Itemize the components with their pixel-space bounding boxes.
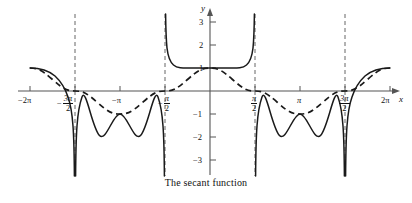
secant-function-figure: −2π −3π2 −π −π2 π2 π 3π2 2π 3 2 1 −1 −2 … <box>0 0 412 203</box>
fraction-pi-over-2-left: π2 <box>164 94 170 112</box>
y-tick-text-2: 2 <box>199 40 203 50</box>
x-tick-label-pi: π <box>297 96 301 105</box>
y-tick-label-2: 2 <box>199 41 203 50</box>
minus-sign-neg-3pi-2: − <box>57 99 62 108</box>
y-tick-text-neg-3: −3 <box>193 155 202 165</box>
x-tick-text-2pi: 2π <box>381 95 390 105</box>
x-tick-text-neg-pi: −π <box>112 95 121 105</box>
fraction-3pi-over-2-right: 3π2 <box>339 94 350 112</box>
y-tick-label-neg-2: −2 <box>193 133 202 142</box>
y-tick-label-1: 1 <box>199 64 203 73</box>
fraction-3pi-over-2-left: 3π2 <box>63 94 74 112</box>
x-axis-label: x <box>399 94 403 104</box>
x-tick-text-pi: π <box>297 95 301 105</box>
x-tick-label-pi-over-2: π2 <box>251 94 257 112</box>
x-tick-text-neg-2pi: −2π <box>18 95 31 105</box>
x-tick-label-neg-pi-over-2: −π2 <box>158 94 170 112</box>
secant-branch-5 <box>346 68 390 176</box>
secant-branch-1 <box>30 68 74 176</box>
fraction-denominator-2-negpi: 2 <box>164 104 170 113</box>
figure-caption: The secant function <box>0 177 412 188</box>
y-tick-text-1: 1 <box>199 63 203 73</box>
x-tick-label-neg-3pi-over-2: −3π2 <box>57 94 73 112</box>
y-tick-label-3: 3 <box>199 18 203 27</box>
minus-sign-neg-pi-2: − <box>158 99 163 108</box>
x-axis-label-text: x <box>399 94 403 104</box>
fraction-denominator-2-pi: 2 <box>251 104 257 113</box>
y-axis-label: y <box>201 3 205 13</box>
fraction-denominator-2-right: 2 <box>339 104 350 113</box>
x-tick-label-3pi-over-2: 3π2 <box>339 94 350 112</box>
x-tick-label-neg-pi: −π <box>112 96 121 105</box>
y-axis-label-text: y <box>201 3 205 13</box>
secant-branch-2 <box>76 95 165 176</box>
y-tick-label-neg-1: −1 <box>193 110 202 119</box>
fraction-pi-over-2-right: π2 <box>251 94 257 112</box>
x-tick-label-neg-2pi: −2π <box>18 96 31 105</box>
fraction-denominator-2-left: 2 <box>63 104 74 113</box>
y-tick-text-neg-1: −1 <box>193 109 202 119</box>
figure-caption-text: The secant function <box>165 177 248 188</box>
x-tick-label-2pi: 2π <box>381 96 390 105</box>
secant-branch-4 <box>256 95 345 176</box>
y-tick-label-neg-3: −3 <box>193 156 202 165</box>
y-tick-text-neg-2: −2 <box>193 132 202 142</box>
y-tick-text-3: 3 <box>199 17 203 27</box>
